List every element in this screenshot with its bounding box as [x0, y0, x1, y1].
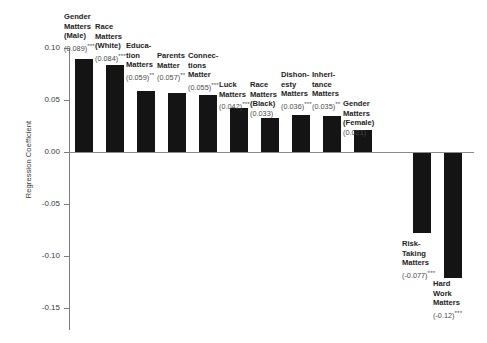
bar	[413, 153, 431, 233]
bar-category-label: Risk- Taking Matters	[402, 239, 449, 268]
significance-stars: **	[180, 71, 185, 78]
regression-coefficient-bar-chart: Regression Coefficient 0.100.050.00-0.05…	[0, 0, 487, 343]
bar	[444, 153, 462, 278]
significance-stars: ***	[211, 81, 219, 88]
bar-category-label: Inheri- tance Matters	[312, 70, 359, 99]
plot-area: Gender Matters (Male)(0.089)***Race Matt…	[0, 0, 487, 343]
bar	[168, 93, 186, 152]
significance-stars: ***	[455, 309, 463, 316]
bar	[137, 91, 155, 152]
significance-stars: ***	[242, 100, 250, 107]
bar-value-label: (0.021)	[343, 128, 395, 138]
significance-stars: ***	[428, 269, 436, 276]
significance-stars: **	[335, 100, 340, 107]
bar	[292, 115, 310, 152]
bar	[75, 59, 93, 152]
significance-stars: ***	[118, 52, 126, 59]
bar	[261, 118, 279, 152]
bar-value-label: (-0.12)***	[433, 308, 485, 321]
bar	[323, 116, 341, 152]
bar-category-label: Gender Matters (Female)	[343, 99, 390, 128]
significance-stars: ***	[304, 100, 312, 107]
bar	[199, 95, 217, 152]
bar-category-label: Hard Work Matters	[433, 279, 480, 308]
significance-stars: **	[149, 71, 154, 78]
bar-category-label: Connec- tions Matter	[188, 51, 235, 80]
bar	[106, 65, 124, 152]
bar	[230, 108, 248, 152]
significance-stars: ***	[87, 42, 95, 49]
